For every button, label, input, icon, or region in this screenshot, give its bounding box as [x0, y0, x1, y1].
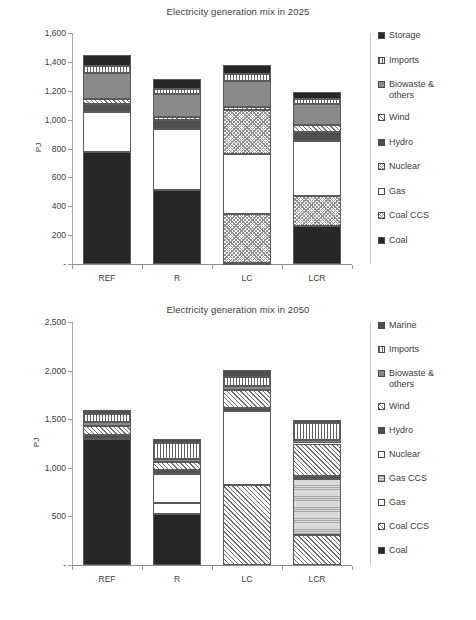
- legend-swatch-icon: [378, 427, 385, 434]
- bar-segment-r-hydro: [153, 470, 201, 474]
- bar-segment-lcr-imports: [293, 423, 341, 440]
- bar-segment-r-wind: [153, 117, 201, 120]
- legend-label: Biowaste & others: [389, 79, 451, 101]
- chart-2050-x-tick-mark: [212, 566, 213, 570]
- x-axis-label-ref: REF: [77, 273, 137, 283]
- bar-segment-r-wind: [153, 462, 201, 469]
- legend-item-hydro[interactable]: Hydro: [378, 425, 413, 436]
- legend-item-coal[interactable]: Coal: [378, 545, 408, 556]
- bar-segment-lc-nuclear: [223, 411, 271, 485]
- bar-segment-lcr-coal: [293, 226, 341, 264]
- bar-segment-lcr-storage: [293, 92, 341, 99]
- bar-segment-r-coal: [153, 514, 201, 565]
- legend-swatch-icon: [378, 499, 385, 506]
- chart-2050-y-tick-label: 2,000: [28, 366, 66, 375]
- legend-item-nuclear[interactable]: Nuclear: [378, 449, 420, 460]
- bar-segment-lcr-biowaste-others: [293, 440, 341, 444]
- chart-2050-y-tick-label: 2,500: [28, 318, 66, 327]
- bar-segment-lcr-marine: [293, 420, 341, 423]
- legend-item-imports[interactable]: Imports: [378, 55, 419, 66]
- chart-2025-y-tick-label: 1,200: [28, 87, 66, 96]
- legend-item-coal-ccs[interactable]: Coal CCS: [378, 521, 429, 532]
- chart-2025-x-tick-mark: [282, 265, 283, 269]
- bar-segment-lc-coal-ccs: [223, 214, 271, 262]
- legend-item-wind[interactable]: Wind: [378, 401, 410, 412]
- legend-label: Coal CCS: [389, 521, 429, 532]
- chart-2025-y-tick-label: -: [28, 260, 66, 269]
- legend-item-hydro[interactable]: Hydro: [378, 137, 413, 148]
- x-axis-label-r: R: [147, 273, 207, 283]
- chart-2050-y-tick-label: -: [28, 561, 66, 570]
- legend-item-biowaste-others[interactable]: Biowaste & others: [378, 79, 451, 101]
- x-axis-label-r: R: [147, 574, 207, 584]
- legend-swatch-icon: [378, 237, 385, 244]
- bar-segment-r-storage: [153, 79, 201, 89]
- legend-swatch-icon: [378, 370, 385, 377]
- legend-swatch-icon: [378, 57, 385, 64]
- bar-segment-lcr-hydro: [293, 132, 341, 141]
- legend-item-gas[interactable]: Gas: [378, 186, 406, 197]
- x-axis-label-lc: LC: [217, 273, 277, 283]
- bar-segment-lc-nuclear: [223, 110, 271, 155]
- legend-item-nuclear[interactable]: Nuclear: [378, 161, 420, 172]
- legend-item-storage[interactable]: Storage: [378, 30, 421, 41]
- bar-segment-r-coal: [153, 190, 201, 264]
- bar-segment-r-gas: [153, 503, 201, 515]
- legend-item-marine[interactable]: Marine: [378, 320, 417, 331]
- chart-2050-container: Electricity generation mix in 2050 PJ-50…: [0, 300, 476, 620]
- bar-segment-r-gas: [153, 129, 201, 190]
- bar-segment-lcr-hydro: [293, 476, 341, 480]
- legend-item-gas-ccs[interactable]: Gas CCS: [378, 473, 427, 484]
- bar-segment-lc-wind: [223, 390, 271, 408]
- legend-item-coal[interactable]: Coal: [378, 235, 408, 246]
- legend-swatch-icon: [378, 114, 385, 121]
- legend-item-wind[interactable]: Wind: [378, 112, 410, 123]
- bar-segment-lc-biowaste-others: [223, 81, 271, 106]
- bar-segment-ref-wind: [83, 99, 131, 103]
- legend-swatch-icon: [378, 475, 385, 482]
- legend-swatch-icon: [378, 32, 385, 39]
- legend-item-imports[interactable]: Imports: [378, 344, 419, 355]
- legend-swatch-icon: [378, 403, 385, 410]
- legend-item-gas[interactable]: Gas: [378, 497, 406, 508]
- legend-label: Marine: [389, 320, 417, 331]
- bar-segment-lcr-coal-ccs: [293, 196, 341, 226]
- legend-swatch-icon: [378, 523, 385, 530]
- bar-segment-lcr-biowaste-others: [293, 104, 341, 125]
- bar-segment-lc-storage: [223, 65, 271, 74]
- legend-swatch-icon: [378, 139, 385, 146]
- legend-label: Hydro: [389, 137, 413, 148]
- bar-segment-r-nuclear: [153, 474, 201, 503]
- legend-label: Biowaste & others: [389, 368, 451, 390]
- bar-segment-ref-hydro: [83, 435, 131, 438]
- bar-segment-ref-wind: [83, 426, 131, 435]
- bar-segment-r-marine: [153, 439, 201, 442]
- legend-swatch-icon: [378, 322, 385, 329]
- bar-segment-lcr-imports: [293, 99, 341, 104]
- bar-segment-lc-coal-ccs: [223, 485, 271, 565]
- bar-segment-lc-imports: [223, 74, 271, 81]
- chart-2050-y-tick-label: 1,000: [28, 464, 66, 473]
- legend-label: Wind: [389, 401, 410, 412]
- bar-segment-lc-hydro: [223, 408, 271, 411]
- chart-2025-y-axis-line: [72, 33, 73, 265]
- chart-2050-y-tick-label: 1,500: [28, 415, 66, 424]
- legend-swatch-icon: [378, 346, 385, 353]
- legend-label: Gas: [389, 497, 406, 508]
- legend-item-coal-ccs[interactable]: Coal CCS: [378, 210, 429, 221]
- x-axis-label-lcr: LCR: [287, 273, 347, 283]
- legend-label: Gas CCS: [389, 473, 427, 484]
- chart-2050-y-tick-label: 500: [28, 512, 66, 521]
- legend-item-biowaste-others[interactable]: Biowaste & others: [378, 368, 451, 390]
- chart-2025-x-tick-mark: [72, 265, 73, 269]
- chart-2025-legend-divider: [370, 33, 371, 264]
- chart-2025-y-tick-label: 1,600: [28, 29, 66, 38]
- bar-segment-lc-wind: [223, 107, 271, 110]
- chart-2025-x-tick-mark: [352, 265, 353, 269]
- chart-2050-legend-divider: [370, 322, 371, 565]
- legend-swatch-icon: [378, 547, 385, 554]
- chart-2025-x-tick-mark: [142, 265, 143, 269]
- chart-2050-x-tick-mark: [352, 566, 353, 570]
- chart-2025-y-tick-label: 400: [28, 202, 66, 211]
- legend-label: Wind: [389, 112, 410, 123]
